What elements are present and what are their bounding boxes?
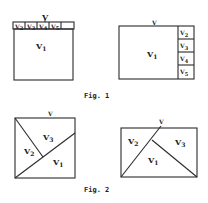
top-label: V bbox=[47, 110, 53, 117]
main-label: V1 bbox=[146, 49, 157, 60]
cell-label: V2 bbox=[14, 23, 24, 32]
cell-label: V2 bbox=[179, 29, 189, 38]
cell-label: V3 bbox=[179, 42, 189, 51]
region-label: V1 bbox=[52, 157, 63, 168]
region-label: V2 bbox=[127, 136, 138, 147]
main-label: V1 bbox=[35, 41, 46, 52]
region-label: V3 bbox=[174, 137, 185, 148]
cell-label: V4 bbox=[38, 23, 48, 32]
figure-caption: Fig. 1 bbox=[84, 92, 109, 100]
cell-label: V5 bbox=[50, 23, 60, 32]
region-label: V1 bbox=[147, 155, 158, 166]
top-label: V bbox=[151, 19, 157, 26]
fig1-right-panel: V V2 V3 V4 V5 V1 bbox=[119, 19, 194, 79]
fig1-left-panel: V V2 V3 V4 V5 V1 bbox=[13, 12, 74, 80]
figure-caption: Fig. 2 bbox=[84, 186, 109, 194]
top-label: V bbox=[158, 118, 164, 125]
fig2-left-panel: V V1 V2 V3 bbox=[15, 110, 75, 178]
main-region bbox=[14, 29, 73, 80]
region-label: V2 bbox=[23, 146, 34, 157]
fig2-right-panel: V V1 V2 V3 bbox=[121, 118, 197, 177]
cell-label: V4 bbox=[179, 55, 189, 64]
region-label: V3 bbox=[42, 132, 53, 143]
cell-label: V5 bbox=[179, 68, 189, 77]
diagram-canvas: V V2 V3 V4 V5 V1 V V2 V3 V4 V5 V1 Fig. 1… bbox=[0, 0, 208, 203]
cell-label: V3 bbox=[26, 23, 36, 32]
diagonal-line bbox=[121, 126, 161, 177]
